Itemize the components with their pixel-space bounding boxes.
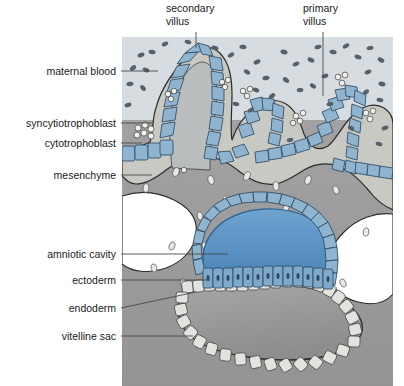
label-primary-villus-line1: primary <box>303 2 339 14</box>
illustration-panel <box>122 37 393 386</box>
label-vitelline-sac: vitelline sac <box>62 330 116 342</box>
ectoderm-cell-layer <box>203 266 333 289</box>
label-endoderm: endoderm <box>69 302 117 314</box>
label-primary-villus-line2: villus <box>303 15 326 27</box>
label-cytotrophoblast: cytotrophoblast <box>45 137 116 149</box>
label-syncytiotrophoblast: syncytiotrophoblast <box>26 117 116 129</box>
label-mesenchyme: mesenchyme <box>54 169 117 181</box>
label-maternal-blood: maternal blood <box>47 65 117 77</box>
label-secondary-villus-line2: villus <box>166 15 189 27</box>
label-amniotic-cavity: amniotic cavity <box>47 248 117 260</box>
embryo-implantation-diagram: secondary villus primary villus maternal… <box>0 0 404 386</box>
label-ectoderm: ectoderm <box>72 274 116 286</box>
label-secondary-villus-line1: secondary <box>166 2 215 14</box>
figure-container: secondary villus primary villus maternal… <box>0 0 404 386</box>
